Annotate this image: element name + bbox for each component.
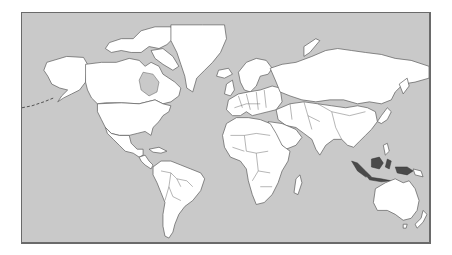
world-map — [21, 12, 431, 244]
world-map-svg — [22, 13, 429, 242]
region-tasmania — [403, 224, 407, 228]
